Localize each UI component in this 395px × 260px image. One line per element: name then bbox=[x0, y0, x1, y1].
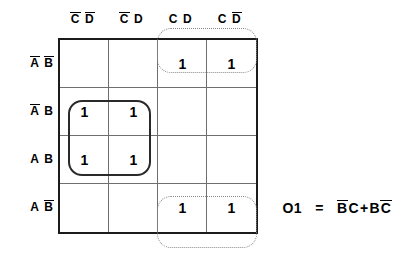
group-outline-middle bbox=[68, 100, 151, 176]
label-d-bar: D bbox=[85, 12, 95, 26]
equation-term2-c-bar: C bbox=[380, 200, 391, 216]
label-d-bar: D bbox=[232, 12, 242, 26]
label-a-bar: A bbox=[30, 56, 40, 70]
row-header-a-b-bar: AB bbox=[6, 200, 54, 214]
label-a: A bbox=[30, 152, 40, 166]
kmap-cell bbox=[109, 184, 158, 232]
label-a-bar: A bbox=[30, 104, 40, 118]
kmap-cell bbox=[60, 184, 109, 232]
label-a: A bbox=[30, 200, 40, 214]
equation-plus: + bbox=[359, 200, 368, 216]
row-header-a-bar-b-bar: AB bbox=[6, 56, 54, 70]
label-b-bar: B bbox=[44, 56, 54, 70]
equation-term1-c: C bbox=[348, 200, 359, 216]
column-header-c-bar-d-bar: CD bbox=[58, 12, 107, 26]
kmap-cell bbox=[158, 136, 207, 184]
label-d: D bbox=[134, 12, 144, 26]
equation-output: O1 bbox=[282, 200, 302, 216]
label-d: D bbox=[183, 12, 193, 26]
label-b: B bbox=[44, 104, 54, 118]
row-header-a-bar-b: AB bbox=[6, 104, 54, 118]
group-outline-bottom bbox=[157, 196, 257, 248]
equation-equals: = bbox=[315, 200, 324, 216]
column-header-c-bar-d: CD bbox=[107, 12, 156, 26]
output-equation: O1 = BC+BC bbox=[282, 200, 392, 216]
kmap-cell bbox=[109, 40, 158, 88]
kmap-cell bbox=[207, 88, 256, 136]
label-b: B bbox=[44, 152, 54, 166]
label-c: C bbox=[168, 12, 178, 26]
label-c-bar: C bbox=[70, 12, 80, 26]
kmap-cell bbox=[207, 136, 256, 184]
equation-term1-b-bar: B bbox=[337, 200, 348, 216]
karnaugh-map-figure: CD CD CD CD AB AB AB AB 1 1 1 1 bbox=[0, 0, 395, 260]
label-c: C bbox=[217, 12, 227, 26]
kmap-cell bbox=[158, 88, 207, 136]
label-b-bar: B bbox=[44, 200, 54, 214]
kmap-cell bbox=[60, 40, 109, 88]
column-header-c-d-bar: CD bbox=[205, 12, 254, 26]
group-outline-top bbox=[157, 28, 257, 73]
label-c-bar: C bbox=[119, 12, 129, 26]
equation-term2-b: B bbox=[369, 200, 380, 216]
column-header-c-d: CD bbox=[156, 12, 205, 26]
row-header-a-b: AB bbox=[6, 152, 54, 166]
